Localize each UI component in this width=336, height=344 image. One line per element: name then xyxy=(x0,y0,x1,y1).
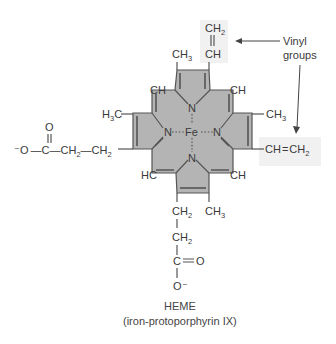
vinyl-top-ch: CH xyxy=(205,48,221,60)
propionate-bottom-c: C xyxy=(173,255,181,267)
vinyl-label-line2: groups xyxy=(283,49,317,61)
methyl-top: CH3 xyxy=(172,48,192,63)
propionate-bottom-ch2-1: CH2 xyxy=(172,205,192,220)
heme-diagram: Fe N N N N CH CH HC CH CH3 CH CH2 H3C ⁻O… xyxy=(0,0,336,344)
propionate-bottom-o-double: O xyxy=(196,255,205,267)
nitrogen-right: N xyxy=(213,126,221,138)
meso-hc-bottom-left: HC xyxy=(141,169,157,181)
nitrogen-top: N xyxy=(188,102,196,114)
propionate-left-carbonyl-o: O xyxy=(45,121,54,133)
meso-ch-top-right: CH xyxy=(230,84,246,96)
meso-ch-top-left: CH xyxy=(150,84,166,96)
propionate-bottom-ch2-2: CH2 xyxy=(172,231,192,246)
nitrogen-left: N xyxy=(164,126,172,138)
meso-ch-bottom-right: CH xyxy=(230,169,246,181)
methyl-right: CH3 xyxy=(266,108,286,123)
methyl-bottom: CH3 xyxy=(205,205,225,220)
methyl-left: H3C xyxy=(102,108,122,123)
nitrogen-bottom: N xyxy=(188,152,196,164)
propionate-bottom-o-minus: O⁻ xyxy=(173,280,188,292)
propionate-left: ⁻O—C—CH2—CH2 xyxy=(14,144,112,159)
molecule-name: HEME xyxy=(164,300,196,312)
iron-label: Fe xyxy=(185,126,198,138)
vinyl-arrow-right xyxy=(297,65,300,128)
vinyl-label-line1: Vinyl xyxy=(283,35,307,47)
molecule-subtitle: (iron-protoporphyrin IX) xyxy=(123,315,237,327)
